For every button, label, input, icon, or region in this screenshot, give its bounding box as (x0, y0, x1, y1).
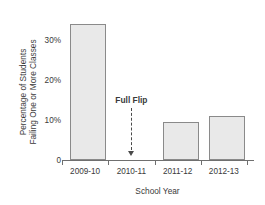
x-axis-tick-mark (247, 160, 248, 165)
annotation-label-full-flip: Full Flip (115, 95, 147, 105)
y-axis-tick-labels: 010%20%30% (38, 0, 61, 205)
bar-2009-10 (70, 24, 106, 160)
bar-2011-12 (163, 122, 199, 160)
x-axis-tick-mark (155, 160, 156, 165)
plot-area (65, 8, 250, 160)
x-axis-tick-labels: 2009-102010-112011-122012-13 (65, 167, 250, 181)
y-axis-title-line-2: Failing One or More Classes (28, 39, 39, 144)
y-axis-tick-label: 30% (38, 36, 61, 45)
y-axis-tick-label: 0 (38, 156, 61, 165)
annotation-arrow-down-icon (128, 151, 134, 156)
x-axis-tick-label-2011-12: 2011-12 (163, 167, 192, 176)
x-axis-tick-label-2009-10: 2009-10 (70, 167, 100, 176)
bar-2012-13 (209, 116, 245, 160)
y-axis-title-line-1: Percentage of Students (18, 49, 29, 136)
x-axis-tick-label-2010-11: 2010-11 (117, 167, 146, 176)
annotation-dashed-line (131, 108, 132, 150)
x-axis-tick-mark (62, 160, 63, 165)
y-axis-tick-label: 10% (38, 116, 61, 125)
x-axis-title: School Year (65, 186, 250, 196)
x-axis-tick-mark (108, 160, 109, 165)
x-axis-tick-label-2012-13: 2012-13 (209, 167, 239, 176)
x-axis-tick-mark (201, 160, 202, 165)
x-axis-line (62, 160, 254, 161)
y-axis-tick-label: 20% (38, 76, 61, 85)
bar-chart: Percentage of Students Failing One or Mo… (0, 0, 265, 205)
